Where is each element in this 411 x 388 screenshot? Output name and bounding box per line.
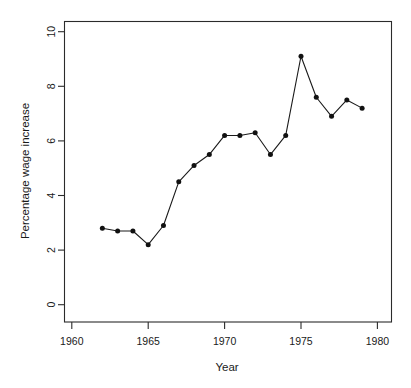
data-point xyxy=(253,130,258,135)
data-point xyxy=(344,97,349,102)
y-tick-label-4: 4 xyxy=(45,192,57,198)
data-point xyxy=(222,133,227,138)
y-tick-label-8: 8 xyxy=(45,83,57,89)
data-point xyxy=(268,152,273,157)
data-point xyxy=(360,106,365,111)
data-point xyxy=(115,228,120,233)
data-point xyxy=(329,114,334,119)
x-tick-label-1970: 1970 xyxy=(213,335,237,347)
x-tick-label-1975: 1975 xyxy=(289,335,313,347)
chart-background xyxy=(0,0,411,388)
y-axis-title: Percentage wage increase xyxy=(19,103,31,239)
data-point xyxy=(192,163,197,168)
x-tick-label-1980: 1980 xyxy=(366,335,390,347)
data-point xyxy=(207,152,212,157)
data-point xyxy=(299,54,304,59)
y-tick-label-0: 0 xyxy=(45,302,57,308)
y-tick-label-10: 10 xyxy=(45,26,57,38)
x-tick-label-1965: 1965 xyxy=(137,335,161,347)
data-point xyxy=(146,242,151,247)
data-point xyxy=(283,133,288,138)
y-tick-label-2: 2 xyxy=(45,247,57,253)
x-axis-title: Year xyxy=(215,361,238,373)
line-chart: 0 2 4 6 8 10 Percentage wage increase 19… xyxy=(0,0,411,388)
data-point xyxy=(161,223,166,228)
x-tick-label-1960: 1960 xyxy=(60,335,84,347)
data-point xyxy=(237,133,242,138)
data-point xyxy=(100,226,105,231)
data-point xyxy=(130,228,135,233)
y-tick-label-6: 6 xyxy=(45,138,57,144)
data-point xyxy=(176,179,181,184)
data-point xyxy=(314,95,319,100)
